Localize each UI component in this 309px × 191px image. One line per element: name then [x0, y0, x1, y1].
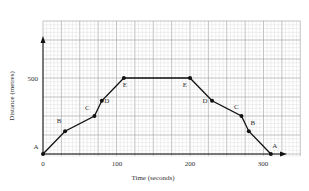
x-axis-label: Time (seconds) [131, 174, 175, 182]
x-tick-200: 200 [185, 160, 196, 168]
x-tick-100: 100 [112, 160, 123, 168]
point-label: E [183, 81, 187, 89]
y-axis-label: Distance (metres) [8, 71, 16, 121]
data-point-A [41, 152, 45, 156]
point-label: D [104, 97, 109, 105]
point-label: D [203, 97, 208, 105]
point-label: B [57, 117, 62, 125]
point-label: A [272, 142, 277, 150]
x-tick-0: 0 [41, 160, 45, 168]
data-point-E [188, 76, 192, 80]
point-label: C [234, 103, 239, 111]
data-point-B [63, 129, 67, 133]
chart-grid [43, 21, 300, 156]
x-tick-300: 300 [258, 160, 269, 168]
y-axis-arrow-icon [41, 36, 46, 43]
data-point-A [269, 152, 273, 156]
data-point-B [247, 129, 251, 133]
point-label: E [123, 81, 127, 89]
point-label: A [33, 143, 38, 151]
chart-axes [41, 36, 288, 157]
data-point-E [122, 76, 126, 80]
x-axis-arrow-icon [280, 152, 287, 157]
point-label: B [250, 119, 255, 127]
data-point-D [210, 99, 214, 103]
distance-time-chart: ABCDEEDCBA 0 100 200 300 500 Time (secon… [0, 0, 309, 191]
y-tick-500: 500 [28, 75, 39, 83]
data-point-C [92, 114, 96, 118]
point-label: C [85, 104, 90, 112]
data-point-D [100, 99, 104, 103]
data-point-C [239, 114, 243, 118]
